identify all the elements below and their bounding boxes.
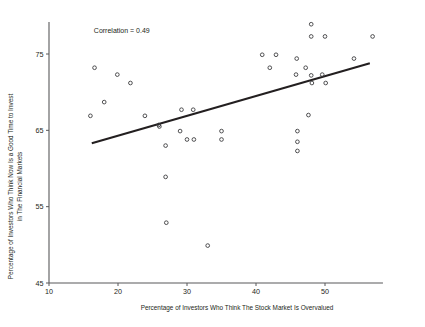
data-point: [102, 100, 106, 104]
data-point: [371, 35, 375, 39]
data-point: [260, 53, 264, 57]
y-tick-label-55: 55: [36, 202, 44, 211]
data-point: [268, 66, 272, 70]
data-point: [296, 140, 300, 144]
data-point: [178, 129, 182, 133]
data-point: [191, 108, 195, 112]
data-point: [309, 74, 313, 78]
x-tick-label-30: 30: [183, 287, 191, 296]
data-point: [89, 114, 93, 118]
data-point: [296, 129, 300, 133]
y-axis-title-line1: Percentage of Investors Who Think Now Is…: [7, 94, 15, 280]
data-point: [294, 73, 298, 77]
data-point: [180, 108, 184, 112]
data-point: [352, 57, 356, 61]
data-point: [307, 113, 311, 117]
data-point: [143, 114, 147, 118]
x-tick-label-50: 50: [321, 287, 329, 296]
x-tick-label-10: 10: [45, 287, 53, 296]
data-point: [310, 81, 314, 85]
data-point: [206, 244, 210, 248]
data-point: [274, 53, 278, 57]
data-point: [115, 73, 119, 77]
data-point: [309, 35, 313, 39]
data-point: [164, 175, 168, 179]
data-point: [129, 81, 133, 85]
data-point: [185, 138, 189, 142]
data-point: [296, 149, 300, 153]
data-point: [295, 57, 299, 61]
data-point: [93, 66, 97, 70]
regression-line-group: [92, 63, 370, 143]
data-point: [220, 138, 224, 142]
axes-group: [49, 22, 383, 283]
data-point: [164, 144, 168, 148]
chart-canvas: 455565751020304050 Correlation = 0.49 Pe…: [0, 0, 425, 327]
scatter-plot-figure: 455565751020304050 Correlation = 0.49 Pe…: [0, 0, 425, 327]
y-tick-label-65: 65: [36, 126, 44, 135]
annotations-group: Correlation = 0.49: [94, 27, 150, 34]
data-point: [324, 81, 328, 85]
data-point: [309, 22, 313, 26]
y-axis-title-line2: in The Financial Markets: [16, 152, 23, 222]
y-tick-label-45: 45: [36, 279, 44, 288]
correlation-annotation: Correlation = 0.49: [94, 27, 150, 34]
x-tick-label-20: 20: [114, 287, 122, 296]
data-points-group: [89, 22, 375, 247]
x-tick-label-40: 40: [252, 287, 260, 296]
data-point: [192, 138, 196, 142]
linear-regression-line: [92, 63, 370, 143]
y-tick-label-75: 75: [36, 50, 44, 59]
data-point: [164, 221, 168, 225]
data-point: [323, 35, 327, 39]
data-point: [304, 66, 308, 70]
x-axis-title: Percentage of Investors Who Think The St…: [141, 304, 334, 312]
data-point: [220, 129, 224, 133]
axis-titles-group: Percentage of Investors Who Think The St…: [7, 94, 334, 312]
